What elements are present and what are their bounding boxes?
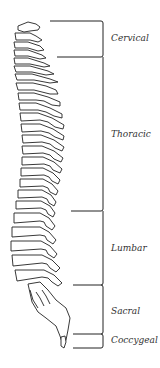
label-sacral: Sacral bbox=[111, 307, 140, 316]
bracket-lumbar bbox=[73, 211, 103, 285]
label-thoracic: Thoracic bbox=[111, 130, 151, 139]
bracket-cervical bbox=[50, 21, 103, 57]
region-brackets bbox=[50, 21, 103, 348]
bracket-thoracic bbox=[71, 57, 103, 211]
label-cervical: Cervical bbox=[111, 34, 149, 43]
bracket-sacral bbox=[73, 285, 103, 334]
label-coccygeal: Coccygeal bbox=[111, 336, 158, 345]
label-lumbar: Lumbar bbox=[111, 244, 147, 253]
vertebral-column-illustration bbox=[11, 22, 70, 348]
bracket-coccygeal bbox=[73, 334, 103, 348]
